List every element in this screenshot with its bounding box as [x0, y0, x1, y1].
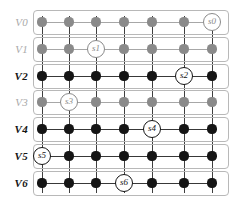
sensor-label: s4 [148, 124, 156, 133]
graph-node [91, 124, 100, 133]
graph-node [179, 97, 188, 106]
graph-node [179, 124, 188, 133]
graph-node [119, 71, 128, 80]
graph-node [37, 17, 46, 26]
sensor-label: s6 [120, 178, 128, 187]
graph-node [91, 17, 100, 26]
layered-grid-diagram: V0s0V1s1V2s2V3s3V4s4V5s5V6s6 [0, 0, 242, 207]
graph-node [147, 71, 156, 80]
graph-node [147, 178, 156, 187]
graph-node [119, 44, 128, 53]
graph-node [37, 44, 46, 53]
graph-node [119, 97, 128, 106]
sensor-label: s5 [38, 151, 46, 160]
graph-node [64, 44, 73, 53]
sensor-label: s0 [208, 17, 216, 26]
sensor-label: s2 [180, 71, 188, 80]
graph-node [64, 151, 73, 160]
graph-node [119, 124, 128, 133]
graph-node [179, 151, 188, 160]
graph-node [179, 44, 188, 53]
graph-node [91, 151, 100, 160]
graph-node [91, 71, 100, 80]
graph-node [91, 178, 100, 187]
row-label-v3: V3 [2, 96, 28, 108]
graph-node [37, 124, 46, 133]
row-label-v0: V0 [2, 16, 28, 28]
graph-node [207, 97, 216, 106]
graph-node [179, 17, 188, 26]
graph-node [207, 71, 216, 80]
graph-node [64, 71, 73, 80]
row-label-v5: V5 [2, 150, 28, 162]
graph-node [64, 17, 73, 26]
graph-node [147, 44, 156, 53]
graph-node [91, 97, 100, 106]
sensor-label: s3 [65, 97, 73, 106]
graph-node [119, 17, 128, 26]
graph-node [64, 124, 73, 133]
graph-node [119, 151, 128, 160]
graph-node [37, 97, 46, 106]
row-label-v6: V6 [2, 177, 28, 189]
row-label-v1: V1 [2, 43, 28, 55]
graph-node [207, 44, 216, 53]
sensor-label: s1 [92, 44, 100, 53]
graph-node [147, 97, 156, 106]
graph-node [64, 178, 73, 187]
row-label-v2: V2 [2, 70, 28, 82]
graph-node [207, 151, 216, 160]
graph-node [207, 124, 216, 133]
graph-node [37, 178, 46, 187]
graph-node [207, 178, 216, 187]
graph-node [147, 151, 156, 160]
graph-node [179, 178, 188, 187]
row-label-v4: V4 [2, 123, 28, 135]
graph-node [147, 17, 156, 26]
graph-node [37, 71, 46, 80]
